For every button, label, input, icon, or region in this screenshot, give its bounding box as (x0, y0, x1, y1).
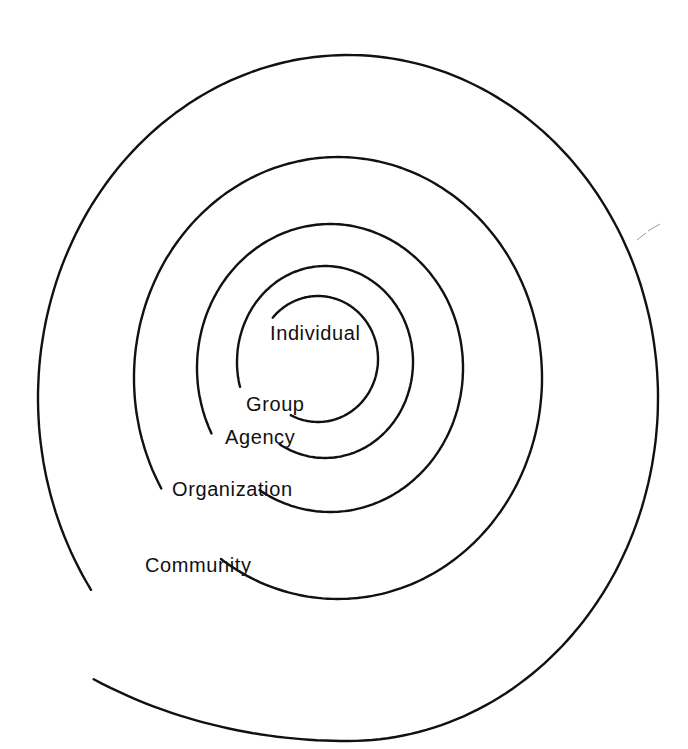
spiral-diagram (0, 0, 688, 749)
label-individual: Individual (270, 323, 361, 343)
label-agency: Agency (225, 427, 295, 447)
label-organization: Organization (172, 479, 293, 499)
label-community: Community (145, 555, 252, 575)
label-group: Group (246, 394, 305, 414)
scan-artifact-mark (637, 224, 660, 240)
